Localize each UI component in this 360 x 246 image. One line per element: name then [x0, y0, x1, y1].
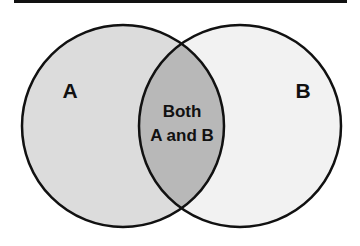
intersection-label-line2: A and B [150, 126, 214, 145]
venn-diagram: A B Both A and B [0, 0, 360, 246]
venn-diagram-canvas: A B Both A and B [0, 0, 360, 246]
set-a-label: A [62, 79, 77, 102]
intersection-label-line1: Both [163, 102, 202, 121]
set-b-label: B [295, 79, 310, 102]
